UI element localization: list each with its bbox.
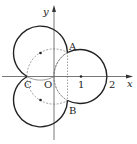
y-axis-label: y bbox=[42, 6, 49, 17]
tick-1-label: 1 bbox=[78, 79, 84, 90]
center-dot-upper bbox=[39, 52, 42, 55]
point-a-label: A bbox=[68, 41, 77, 52]
point-c-label: C bbox=[24, 79, 32, 90]
tick-2-label: 2 bbox=[109, 79, 115, 90]
center-dot-lower bbox=[39, 99, 42, 102]
y-axis-arrow-icon bbox=[52, 5, 56, 12]
diagram: y x A B C O 1 2 bbox=[0, 0, 137, 144]
origin-label: O bbox=[44, 79, 52, 90]
center-dot-right bbox=[80, 75, 83, 78]
point-b-label: B bbox=[69, 105, 76, 116]
x-axis-label: x bbox=[127, 78, 133, 89]
